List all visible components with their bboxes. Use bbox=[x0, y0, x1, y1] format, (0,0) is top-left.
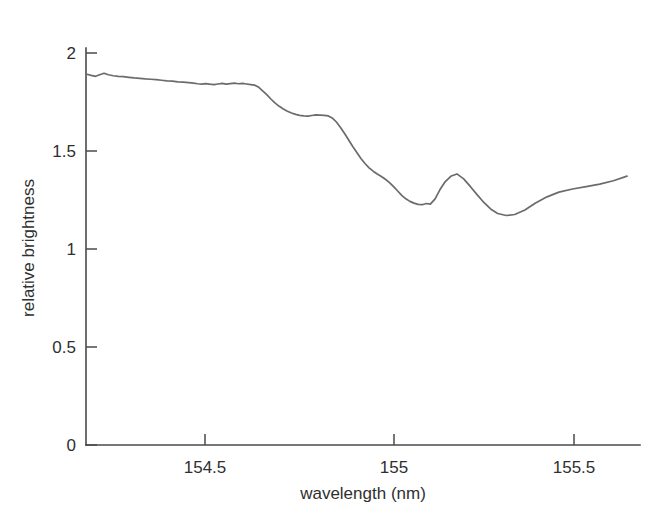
y-tick-labels: 2 1.5 1 0.5 0 bbox=[52, 44, 76, 455]
y-tick-label-0p5: 0.5 bbox=[52, 338, 76, 357]
x-tick-marks bbox=[205, 434, 574, 445]
x-tick-label-155: 155 bbox=[380, 458, 408, 477]
x-axis-title: wavelength (nm) bbox=[299, 484, 426, 503]
y-tick-label-2: 2 bbox=[67, 44, 76, 63]
axes bbox=[86, 48, 640, 445]
x-tick-label-155p5: 155.5 bbox=[553, 458, 596, 477]
y-tick-label-0: 0 bbox=[67, 436, 76, 455]
chart-svg: 2 1.5 1 0.5 0 154.5 155 155.5 wavelength… bbox=[0, 0, 653, 527]
y-axis-title: relative brightness bbox=[19, 179, 38, 317]
y-tick-label-1: 1 bbox=[67, 240, 76, 259]
y-tick-marks bbox=[86, 53, 97, 445]
y-tick-label-1p5: 1.5 bbox=[52, 142, 76, 161]
x-tick-label-154p5: 154.5 bbox=[184, 458, 227, 477]
spectrum-line bbox=[86, 73, 627, 215]
chart-figure: 2 1.5 1 0.5 0 154.5 155 155.5 wavelength… bbox=[0, 0, 653, 527]
x-tick-labels: 154.5 155 155.5 bbox=[184, 458, 596, 477]
